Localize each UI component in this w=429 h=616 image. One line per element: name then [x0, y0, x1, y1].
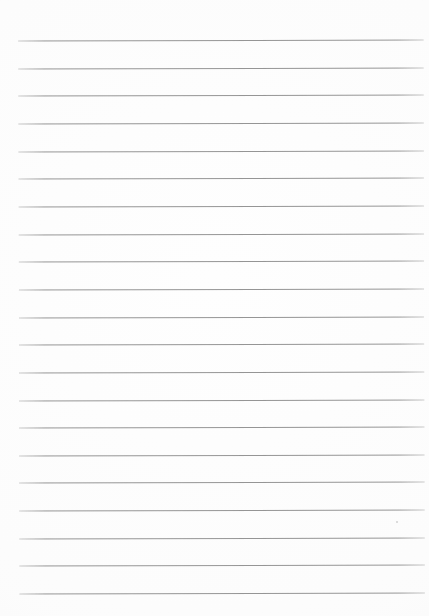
- rule-line: [19, 178, 424, 180]
- rule-line: [19, 482, 424, 484]
- rule-line: [19, 95, 424, 97]
- rule-line: [19, 233, 424, 235]
- rule-line: [19, 344, 424, 346]
- paper-speck: [396, 521, 398, 523]
- rule-line: [20, 593, 425, 595]
- rule-line: [19, 399, 424, 401]
- rule-line: [19, 454, 424, 456]
- rule-line: [19, 288, 424, 290]
- rule-line: [20, 537, 425, 539]
- ruled-paper-page: [0, 0, 429, 616]
- rule-line: [19, 150, 424, 152]
- rule-line: [20, 565, 425, 567]
- rule-line: [18, 40, 423, 42]
- ruled-lines-layer: [0, 0, 429, 616]
- rule-line: [19, 316, 424, 318]
- rule-line: [19, 261, 424, 263]
- rule-line: [19, 371, 424, 373]
- rule-line: [19, 510, 424, 512]
- rule-line: [19, 427, 424, 429]
- rule-line: [18, 67, 423, 69]
- rule-line: [19, 123, 424, 125]
- rule-line: [19, 205, 424, 207]
